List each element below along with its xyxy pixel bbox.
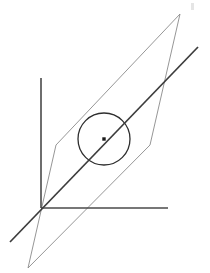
oblique-line bbox=[10, 47, 198, 242]
scan-artifact bbox=[191, 3, 194, 10]
geometric-diagram-svg bbox=[0, 0, 210, 273]
figure-root bbox=[0, 0, 210, 273]
circle-center-point bbox=[102, 137, 105, 140]
parallelogram-plane bbox=[28, 14, 180, 268]
